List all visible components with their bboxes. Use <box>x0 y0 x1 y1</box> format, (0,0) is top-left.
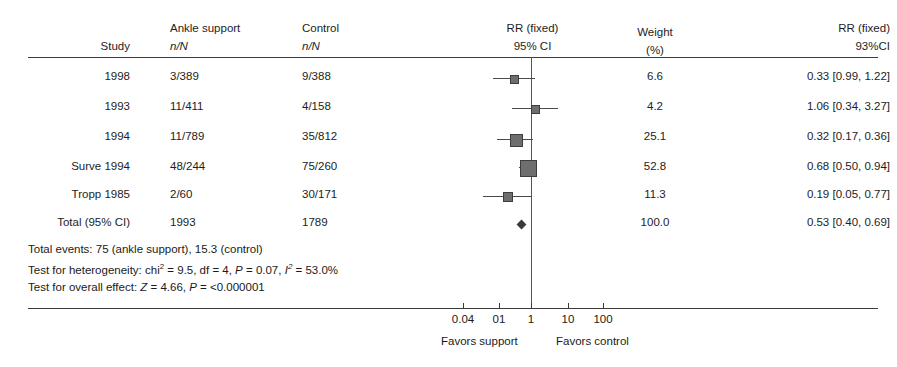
effect-estimate-marker <box>510 75 519 84</box>
footnote-total-events: Total events: 75 (ankle support), 15.3 (… <box>28 243 263 255</box>
row-weight: 11.3 <box>600 188 710 201</box>
row-control-rate: 35/812 <box>302 130 422 143</box>
row-control-rate: 4/158 <box>302 100 422 113</box>
row-weight: 4.2 <box>600 100 710 113</box>
row-study-name: Tropp 1985 <box>0 188 130 201</box>
overall-prefix: Test for overall effect: <box>28 281 140 293</box>
total-row-label: Total (95% CI) <box>0 216 130 229</box>
forest-plot: Ankle support Control RR (fixed) Weight … <box>0 0 897 367</box>
heterogeneity-mid: = 9.5, df = 4, <box>164 264 235 276</box>
axis-tick-label: 0.04 <box>452 313 474 325</box>
row-control-rate: 9/388 <box>302 70 422 83</box>
row-treatment-rate: 2/60 <box>170 188 290 201</box>
summary-diamond <box>516 219 526 229</box>
overall-p-value: = <0.000001 <box>197 281 265 293</box>
row-study-name: 1998 <box>0 70 130 83</box>
overall-z-value: = 4.66, <box>147 281 189 293</box>
favors-left-label: Favors support <box>441 335 518 347</box>
column-header-study: Study <box>0 40 130 53</box>
row-effect-estimate: 0.68 [0.50, 0.94] <box>740 160 890 173</box>
axis-tick <box>531 303 532 308</box>
row-weight: 25.1 <box>600 130 710 143</box>
row-effect-estimate: 0.32 [0.17, 0.36] <box>740 130 890 143</box>
axis-tick <box>603 303 604 308</box>
row-treatment-rate: 11/411 <box>170 100 290 113</box>
column-header-control-units: n/N <box>302 40 422 53</box>
overall-p-symbol: P <box>189 281 197 293</box>
row-treatment-rate: 3/389 <box>170 70 290 83</box>
favors-right-label: Favors control <box>556 335 629 347</box>
row-study-name: 1993 <box>0 100 130 113</box>
axis-tick-label: 10 <box>562 313 575 325</box>
heterogeneity-p-symbol: P <box>235 264 243 276</box>
footnote-heterogeneity: Test for heterogeneity: chi2 = 9.5, df =… <box>28 262 338 276</box>
column-header-treatment-units: n/N <box>170 40 290 53</box>
column-header-plot-ci: 95% CI <box>455 40 610 53</box>
row-weight: 52.8 <box>600 160 710 173</box>
effect-estimate-marker <box>510 134 523 147</box>
total-control-n: 1789 <box>302 216 422 229</box>
total-weight: 100.0 <box>600 216 710 229</box>
row-effect-estimate: 0.33 [0.99, 1.22] <box>740 70 890 83</box>
row-weight: 6.6 <box>600 70 710 83</box>
column-header-treatment: Ankle support <box>170 22 290 35</box>
axis-tick <box>463 303 464 308</box>
heterogeneity-p-value: = 0.07, <box>243 264 285 276</box>
column-header-weight-units: (%) <box>600 44 710 57</box>
axis-line <box>28 308 878 309</box>
header-rule <box>28 57 878 58</box>
axis-tick-label: 100 <box>593 313 612 325</box>
effect-estimate-marker <box>520 160 537 177</box>
axis-tick <box>568 303 569 308</box>
axis-tick-label: 01 <box>493 313 506 325</box>
column-header-effect-ci: 93%CI <box>740 40 890 53</box>
column-header-effect: RR (fixed) <box>740 22 890 35</box>
footnote-overall-effect: Test for overall effect: Z = 4.66, P = <… <box>28 281 265 293</box>
heterogeneity-i-value: = 53.0% <box>292 264 338 276</box>
column-header-plot: RR (fixed) <box>455 22 610 35</box>
heterogeneity-prefix: Test for heterogeneity: chi <box>28 264 160 276</box>
row-treatment-rate: 48/244 <box>170 160 290 173</box>
effect-estimate-marker <box>503 192 513 202</box>
total-effect-estimate: 0.53 [0.40, 0.69] <box>740 216 890 229</box>
axis-tick-label: 1 <box>528 313 534 325</box>
row-effect-estimate: 1.06 [0.34, 3.27] <box>740 100 890 113</box>
total-treatment-n: 1993 <box>170 216 290 229</box>
axis-tick <box>499 303 500 308</box>
row-control-rate: 30/171 <box>302 188 422 201</box>
row-study-name: Surve 1994 <box>0 160 130 173</box>
row-treatment-rate: 11/789 <box>170 130 290 143</box>
row-study-name: 1994 <box>0 130 130 143</box>
column-header-control: Control <box>302 22 422 35</box>
null-effect-line <box>531 57 532 309</box>
row-control-rate: 75/260 <box>302 160 422 173</box>
effect-estimate-marker <box>531 105 540 114</box>
row-effect-estimate: 0.19 [0.05, 0.77] <box>740 188 890 201</box>
column-header-weight: Weight <box>600 26 710 39</box>
